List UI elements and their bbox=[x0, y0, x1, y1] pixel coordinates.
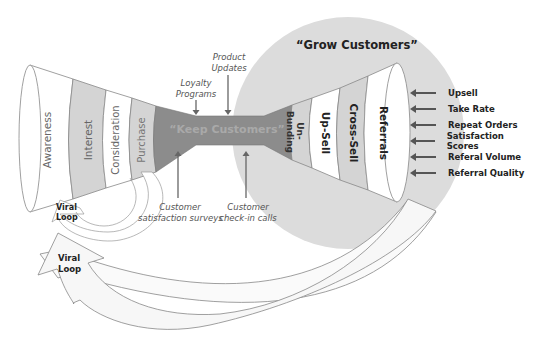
input-checkin-calls-line2: check-in calls bbox=[219, 213, 276, 223]
stage-label-interest: Interest bbox=[83, 105, 97, 175]
metric-repeat-orders: Repeat Orders bbox=[410, 119, 517, 131]
input-satisfaction-surveys-line1: Customer bbox=[159, 202, 200, 212]
grow-customers-title: “Grow Customers” bbox=[296, 40, 418, 52]
metric-label: Repeat Orders bbox=[448, 120, 517, 130]
stage-label-upsell: Up-Sell bbox=[317, 105, 331, 161]
viral-loop-large-line2: Loop bbox=[58, 264, 81, 274]
stage-label-referrals: Referrals bbox=[375, 95, 389, 171]
arrow-left-icon bbox=[410, 119, 436, 131]
stage-label-unbundling-line2: Bunding bbox=[285, 111, 295, 153]
input-product-updates-line1: Product bbox=[213, 52, 246, 62]
stage-label-purchase: Purchase bbox=[137, 106, 151, 174]
viral-loop-small-line1: Viral bbox=[56, 203, 77, 212]
input-loyalty-programs-line1: Loyalty bbox=[181, 78, 212, 88]
metric-label: Upsell bbox=[448, 88, 478, 98]
metric-referal-volume: Referal Volume bbox=[410, 151, 521, 163]
input-product-updates-line2: Updates bbox=[211, 63, 246, 73]
arrow-left-icon bbox=[410, 103, 436, 115]
input-satisfaction-surveys-line2: satisfaction surveys bbox=[138, 213, 223, 223]
keep-customers-title: “Keep Customers” bbox=[162, 124, 292, 135]
metric-take-rate: Take Rate bbox=[410, 103, 495, 115]
viral-loop-large-label: Viral Loop bbox=[58, 253, 81, 275]
stage-label-unbundling-line1: Un- bbox=[295, 122, 305, 139]
viral-loop-small-line2: Loop bbox=[56, 213, 78, 222]
growth-funnel-diagram: Awareness Interest Consideration Purchas… bbox=[0, 0, 534, 353]
metric-referral-quality: Referral Quality bbox=[410, 167, 524, 179]
metric-upsell: Upsell bbox=[410, 87, 478, 99]
input-product-updates: Product Updates bbox=[204, 52, 254, 74]
input-loyalty-programs: Loyalty Programs bbox=[168, 78, 224, 100]
input-checkin-calls: Customer check-in calls bbox=[218, 202, 278, 224]
input-loyalty-programs-line2: Programs bbox=[176, 89, 217, 99]
arrow-left-icon bbox=[410, 167, 436, 179]
input-checkin-calls-line1: Customer bbox=[227, 202, 268, 212]
metric-label: Referal Volume bbox=[448, 152, 521, 162]
metric-label: Satisfaction Scores bbox=[447, 131, 534, 151]
arrow-left-icon bbox=[410, 87, 436, 99]
stage-label-unbundling: Un- Bunding bbox=[279, 111, 305, 151]
viral-loop-large-line1: Viral bbox=[58, 253, 80, 263]
metric-satisfaction-scores: Satisfaction Scores bbox=[410, 135, 534, 147]
stage-label-consideration: Consideration bbox=[111, 100, 125, 180]
arrow-left-icon bbox=[410, 151, 436, 163]
stage-label-crosssell: Cross-Sell bbox=[345, 99, 359, 167]
viral-loop-small-label: Viral Loop bbox=[56, 203, 78, 223]
arrow-left-icon bbox=[410, 135, 435, 147]
metrics-list: Upsell Take Rate Repeat Orders Satisfact… bbox=[410, 87, 534, 187]
stage-label-awareness: Awareness bbox=[42, 103, 56, 177]
funnel-opening-left bbox=[19, 65, 41, 212]
input-satisfaction-surveys: Customer satisfaction surveys bbox=[138, 202, 222, 224]
metric-label: Take Rate bbox=[448, 104, 495, 114]
metric-label: Referral Quality bbox=[448, 168, 524, 178]
